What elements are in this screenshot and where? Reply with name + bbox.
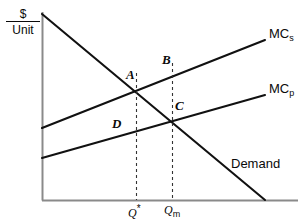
mc-private-label-base: MC	[269, 81, 289, 96]
mc-private-label: MCp	[269, 82, 294, 95]
externality-diagram-figure: $ Unit MCs MCp Demand A B C D Q* Qm	[0, 0, 302, 223]
demand-curve	[42, 14, 265, 200]
y-axis-label: $ Unit	[6, 8, 40, 36]
y-axis-numerator: $	[6, 8, 40, 21]
mc-private-curve	[42, 95, 265, 158]
point-label-a: A	[126, 68, 135, 81]
point-label-b: B	[162, 53, 171, 66]
q-star-mark: *	[137, 203, 141, 214]
q-m-base: Q	[164, 203, 173, 217]
q-m-sub: m	[173, 209, 181, 219]
mc-social-curve	[42, 40, 265, 128]
fraction-bar	[6, 21, 40, 22]
mc-social-label: MCs	[269, 27, 294, 40]
demand-label: Demand	[231, 157, 280, 170]
point-label-c: C	[175, 99, 184, 112]
mc-social-label-base: MC	[269, 26, 289, 41]
q-star-base: Q	[128, 206, 137, 220]
x-tick-label-q-m: Qm	[164, 204, 180, 216]
y-axis-denominator: Unit	[6, 23, 40, 36]
plot-canvas	[0, 0, 302, 223]
x-tick-label-q-star: Q*	[128, 204, 141, 219]
point-label-d: D	[112, 117, 121, 130]
mc-social-label-sub: s	[289, 33, 294, 43]
mc-private-label-sub: p	[289, 88, 294, 98]
